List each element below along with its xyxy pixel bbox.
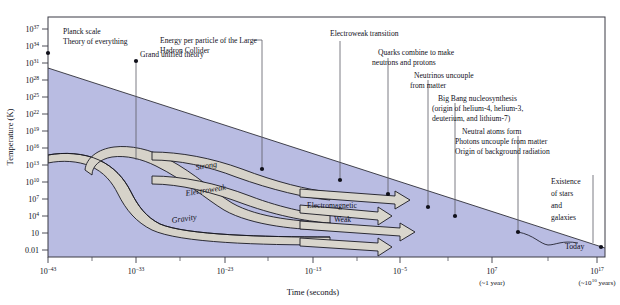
svg-text:1025: 1025 — [25, 92, 39, 102]
x-axis-ticks — [48, 257, 597, 263]
marker-today — [599, 245, 603, 249]
svg-text:1010: 1010 — [25, 177, 39, 187]
svg-text:1013: 1013 — [25, 160, 39, 170]
annotation-bbn-line3: deuterium, and lithium-7) — [432, 114, 511, 123]
y-tick-base: 10 — [25, 25, 33, 34]
marker-electroweak-transition — [338, 178, 342, 182]
figure-universe-evolution: 1037 1034 1031 1028 1025 1022 1019 1016 … — [0, 0, 620, 305]
y-axis-tick-labels: 1037 1034 1031 1028 1025 1022 1019 1016 … — [25, 24, 39, 255]
svg-text:10−43: 10−43 — [40, 266, 57, 276]
annotation-neutral-atoms-line2: Photons uncouple from matter — [455, 137, 548, 146]
svg-text:0.01: 0.01 — [25, 246, 39, 255]
annotation-neutrinos-line2: from matter — [410, 81, 447, 90]
svg-text:1019: 1019 — [25, 126, 39, 136]
annotation-neutrinos-line1: Neutrinos uncouple — [414, 71, 474, 80]
svg-text:10−5: 10−5 — [393, 266, 407, 276]
y-axis-ticks — [42, 29, 48, 250]
annotation-gut: Grand unified theory — [140, 50, 204, 59]
svg-text:1017: 1017 — [590, 266, 604, 276]
svg-text:1016: 1016 — [25, 143, 39, 153]
svg-text:1034: 1034 — [25, 41, 39, 51]
annotation-stars-line3: and — [551, 201, 562, 210]
annotation-today: Today — [565, 242, 584, 251]
annotation-stars-line1: Existence — [551, 177, 581, 186]
x-axis-title: Time (seconds) — [287, 287, 340, 297]
annotation-planck-line2: Theory of everything — [63, 37, 128, 46]
svg-text:1031: 1031 — [25, 58, 39, 68]
svg-text:1037: 1037 — [25, 24, 39, 34]
x-tick-subnote-one-year: (~1 year) — [479, 279, 505, 287]
annotation-neutral-atoms-line1: Neutral atoms form — [462, 127, 522, 136]
x-axis-tick-labels: 10−43 10−33 10−23 10−13 10−5 107 1017 — [40, 266, 604, 276]
annotation-neutral-atoms-line3: Origin of background radiation — [455, 147, 550, 156]
marker-lhc — [260, 167, 264, 171]
annotation-electroweak-transition: Electroweak transition — [330, 29, 399, 38]
annotation-quarks-line2: neutrons and protons — [372, 58, 436, 67]
marker-big-bang-nucleosynthesis — [453, 214, 457, 218]
svg-text:104: 104 — [28, 211, 39, 221]
annotation-lhc-line1: Energy per particle of the Large — [160, 36, 258, 45]
marker-gut — [134, 59, 138, 63]
svg-text:10−23: 10−23 — [217, 266, 234, 276]
force-label-weak: Weak — [334, 215, 351, 224]
svg-text:107: 107 — [487, 266, 498, 276]
annotation-planck-line1: Planck scale — [63, 27, 101, 36]
svg-text:10: 10 — [31, 229, 39, 238]
marker-quarks-combine — [386, 192, 390, 196]
annotation-bbn-line1: Big Bang nucleosynthesis — [438, 94, 517, 103]
annotation-quarks-line1: Quarks combine to make — [378, 48, 455, 57]
y-tick-exp: 37 — [33, 24, 39, 30]
svg-text:10−33: 10−33 — [128, 266, 145, 276]
x-tick-subnote-ten-billion-years: (~1010 years) — [579, 278, 617, 287]
svg-text:10−13: 10−13 — [305, 266, 322, 276]
annotation-stars-line4: galaxies — [551, 213, 576, 222]
force-label-electromagnetic: Electromagnetic — [307, 201, 357, 210]
annotation-bbn-line2: (origin of helium-4, helium-3, — [432, 104, 523, 113]
y-axis-title: Temperature (K) — [5, 108, 15, 165]
marker-neutrinos-uncouple — [426, 205, 430, 209]
svg-text:1028: 1028 — [25, 75, 39, 85]
annotation-stars-line2: of stars — [551, 189, 573, 198]
svg-text:1022: 1022 — [25, 109, 39, 119]
marker-planck-scale — [46, 51, 50, 55]
chart-svg: 1037 1034 1031 1028 1025 1022 1019 1016 … — [0, 0, 620, 305]
svg-text:107: 107 — [28, 194, 39, 204]
